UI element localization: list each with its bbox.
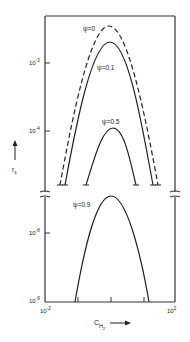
- y-ticks: [45, 63, 50, 233]
- x-tick-1e-2: 10-2: [40, 306, 51, 314]
- arrow-right-icon: [125, 321, 131, 326]
- y-tick-1e-8: 10-8: [29, 228, 40, 236]
- arrow-up-icon: [13, 140, 18, 146]
- y-tick-1e-3: 10-3: [29, 58, 40, 66]
- chart: 10-3 10-4 10-8 10-9 10-2 102 rs CH2 ψ=0 …: [0, 0, 190, 342]
- label-psi-0.1: ψ=0.1: [97, 64, 115, 72]
- label-psi-0: ψ=0: [83, 25, 95, 33]
- x-tick-1e2: 102: [167, 306, 177, 314]
- x-tick-labels: 10-2 102: [40, 306, 177, 314]
- curve-psi-0.9: [75, 196, 149, 302]
- y-tick-1e-9: 10-9: [29, 296, 40, 304]
- curve-psi-0.5: [86, 128, 136, 185]
- curve-psi-0: [60, 26, 158, 185]
- y-axis-label: rs: [12, 140, 18, 175]
- x-axis-label: CH2: [94, 319, 131, 331]
- svg-text:rs: rs: [12, 166, 17, 175]
- y-tick-1e-4: 10-4: [29, 126, 40, 134]
- y-tick-labels: 10-3 10-4 10-8 10-9: [29, 58, 40, 304]
- label-psi-0.5: ψ=0.5: [102, 118, 120, 126]
- x-ticks: [78, 297, 144, 302]
- series-labels: ψ=0 ψ=0.1 ψ=0.5 ψ=0.9: [73, 25, 120, 209]
- svg-text:CH2: CH2: [94, 319, 106, 331]
- label-psi-0.9: ψ=0.9: [73, 201, 91, 209]
